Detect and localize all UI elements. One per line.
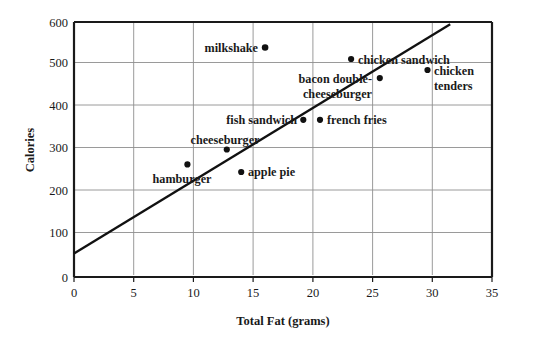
ytick-500: 500 — [49, 56, 68, 70]
xtick-30: 30 — [426, 286, 439, 300]
point-label-chicken-tenders-line1: chicken — [434, 64, 474, 78]
scatter-chart: 0 100 200 300 400 500 600 0 5 10 15 20 2… — [0, 0, 540, 341]
point-label-french-fries: french fries — [327, 113, 387, 127]
point-label-chicken-tenders-line2: tenders — [434, 79, 473, 93]
ytick-300: 300 — [49, 141, 68, 155]
xtick-10: 10 — [187, 286, 200, 300]
xtick-20: 20 — [307, 286, 320, 300]
data-point-chicken-sandwich[interactable] — [348, 56, 354, 62]
y-axis-title: Calories — [23, 128, 37, 173]
xtick-5: 5 — [131, 286, 137, 300]
data-point-hamburger[interactable] — [184, 161, 190, 167]
data-point-cheeseburger[interactable] — [224, 146, 230, 152]
ytick-200: 200 — [49, 184, 68, 198]
ytick-100: 100 — [49, 226, 68, 240]
ytick-0: 0 — [62, 271, 68, 285]
chart-canvas: 0 100 200 300 400 500 600 0 5 10 15 20 2… — [0, 0, 540, 341]
point-label-bacon-double-line1: bacon double- — [299, 72, 372, 86]
point-label-cheeseburger: cheeseburger — [190, 133, 260, 147]
xtick-15: 15 — [247, 286, 260, 300]
ytick-400: 400 — [49, 99, 68, 113]
point-label-hamburger: hamburger — [153, 172, 212, 186]
point-label-bacon-double-line2: cheeseburger — [303, 87, 373, 101]
point-label-fish-sandwich: fish sandwich — [226, 113, 297, 127]
point-label-milkshake: milkshake — [204, 41, 258, 55]
xtick-0: 0 — [71, 286, 77, 300]
data-point-fish-sandwich[interactable] — [300, 117, 306, 123]
data-point-french-fries[interactable] — [317, 117, 323, 123]
data-point-milkshake[interactable] — [262, 44, 269, 51]
ytick-600: 600 — [49, 16, 68, 30]
x-axis-title: Total Fat (grams) — [236, 314, 329, 328]
data-point-apple-pie[interactable] — [238, 169, 244, 175]
xtick-35: 35 — [486, 286, 499, 300]
data-point-bacon-double-cheeseburger[interactable] — [377, 75, 383, 81]
point-label-apple-pie: apple pie — [248, 165, 296, 179]
xtick-25: 25 — [366, 286, 379, 300]
data-point-chicken-tenders[interactable] — [424, 67, 430, 73]
